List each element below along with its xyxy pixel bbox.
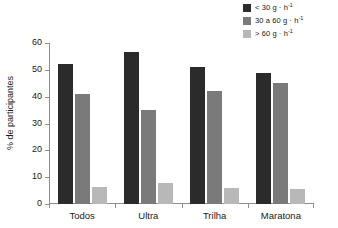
legend-item[interactable]: 30 a 60 g · h-1: [243, 17, 304, 25]
bar: [224, 188, 239, 204]
y-axis-tick-label: 60: [32, 37, 42, 48]
bar: [75, 94, 90, 204]
x-axis-tick: [49, 204, 50, 208]
bar: [92, 187, 107, 204]
y-axis-tick-label: 30: [32, 118, 42, 129]
y-axis-title: % de participantes: [3, 28, 17, 198]
x-axis-tick: [182, 204, 183, 208]
x-axis-tick-label: Ultra: [115, 210, 181, 222]
x-axis-tick-label: Maratona: [248, 210, 314, 222]
bar-chart: < 30 g · h-130 a 60 g · h-1> 60 g · h-1 …: [0, 0, 338, 228]
y-axis-tick-label: 10: [32, 171, 42, 182]
x-axis-tick: [248, 204, 249, 208]
bar-group: Maratona: [248, 43, 314, 204]
legend-item-label: < 30 g · h-1: [255, 4, 293, 12]
y-axis-tick-label: 20: [32, 144, 42, 155]
bar: [290, 189, 305, 204]
x-axis-tick-label: Todos: [49, 210, 115, 222]
bar: [141, 110, 156, 204]
bar: [256, 73, 271, 204]
bar-group: Todos: [49, 43, 115, 204]
bar: [58, 64, 73, 204]
x-axis-tick: [313, 204, 314, 208]
bar-group: Ultra: [115, 43, 181, 204]
legend-item[interactable]: > 60 g · h-1: [243, 30, 304, 38]
y-axis-tick-label: 40: [32, 91, 42, 102]
chart-legend: < 30 g · h-130 a 60 g · h-1> 60 g · h-1: [243, 4, 304, 38]
bar: [273, 83, 288, 204]
legend-swatch-icon: [243, 17, 251, 25]
bar-group: Trilha: [182, 43, 248, 204]
legend-swatch-icon: [243, 30, 251, 38]
bar: [158, 183, 173, 204]
x-axis-tick-label: Trilha: [182, 210, 248, 222]
plot-area: 0102030405060 TodosUltraTrilhaMaratona: [49, 43, 314, 204]
legend-item[interactable]: < 30 g · h-1: [243, 4, 304, 12]
legend-item-label: 30 a 60 g · h-1: [255, 17, 304, 25]
y-axis-tick-label: 50: [32, 64, 42, 75]
legend-swatch-icon: [243, 4, 251, 12]
bar: [124, 52, 139, 204]
legend-item-label: > 60 g · h-1: [255, 30, 293, 38]
x-axis-tick: [115, 204, 116, 208]
bar: [190, 67, 205, 204]
bar-groups: TodosUltraTrilhaMaratona: [49, 43, 314, 204]
bar: [207, 91, 222, 204]
y-axis-tick-label: 0: [37, 198, 42, 209]
